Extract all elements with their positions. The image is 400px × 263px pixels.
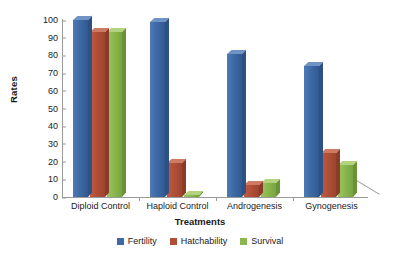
legend-label: Hatchability xyxy=(181,236,228,246)
x-axis-tick-mark xyxy=(139,197,140,201)
y-axis-tick-mark xyxy=(62,91,66,92)
y-axis-tick-mark xyxy=(62,38,66,39)
bar-front-face xyxy=(107,32,122,197)
y-axis-tick-label: 100 xyxy=(28,16,58,25)
bar-group xyxy=(150,20,199,197)
y-axis-tick-mark xyxy=(62,179,66,180)
bar-front-face xyxy=(338,165,353,197)
bar-side-face xyxy=(182,159,186,197)
y-axis-tick-mark xyxy=(62,55,66,56)
bar-fertility xyxy=(150,22,165,197)
bar-survival xyxy=(107,32,122,197)
y-axis-tick-mark xyxy=(62,197,66,198)
y-axis-tick-mark xyxy=(62,73,66,74)
bar-hatchability xyxy=(90,32,105,197)
y-axis-tick-mark xyxy=(62,126,66,127)
y-axis-tick-label: 40 xyxy=(28,122,58,131)
legend-item-survival[interactable]: Survival xyxy=(240,236,283,246)
bar-fertility xyxy=(227,54,242,197)
y-axis-tick-mark xyxy=(62,144,66,145)
bar-front-face xyxy=(167,163,182,197)
y-axis-tick-label: 30 xyxy=(28,139,58,148)
legend-item-fertility[interactable]: Fertility xyxy=(117,236,157,246)
bar-side-face xyxy=(105,28,109,197)
bar-group xyxy=(73,20,122,197)
y-axis-tick-label: 80 xyxy=(28,51,58,60)
y-axis-tick-label: 0 xyxy=(28,193,58,202)
bar-side-face xyxy=(353,161,357,197)
bar-front-face xyxy=(73,20,88,197)
legend-swatch xyxy=(117,238,124,245)
bar-front-face xyxy=(150,22,165,197)
y-axis-tick-label: 20 xyxy=(28,157,58,166)
bar-front-face xyxy=(244,185,259,197)
bar-side-face xyxy=(88,16,92,197)
bar-survival xyxy=(261,183,276,197)
bar-side-face xyxy=(336,148,340,197)
plot-area xyxy=(62,20,370,197)
x-axis-tick-mark xyxy=(293,197,294,201)
legend-label: Fertility xyxy=(128,236,157,246)
y-axis-tick-label: 50 xyxy=(28,104,58,113)
bar-side-face xyxy=(242,49,246,197)
x-axis-category-label: Androgenesis xyxy=(227,201,282,211)
legend-swatch xyxy=(240,238,247,245)
bar-survival xyxy=(338,165,353,197)
chart-legend: FertilityHatchabilitySurvival xyxy=(0,236,400,246)
bar-group xyxy=(227,20,276,197)
y-axis-tick-mark xyxy=(62,109,66,110)
bar-hatchability xyxy=(321,153,336,197)
bar-front-face xyxy=(184,195,199,197)
y-axis-tick-label: 60 xyxy=(28,86,58,95)
legend-swatch xyxy=(170,238,177,245)
bar-group xyxy=(304,20,353,197)
y-axis-tick-label: 10 xyxy=(28,175,58,184)
bar-front-face xyxy=(304,66,319,197)
y-axis-tick-mark xyxy=(62,20,66,21)
bar-front-face xyxy=(321,153,336,197)
y-axis-tick-label: 90 xyxy=(28,33,58,42)
y-axis-tick-label: 70 xyxy=(28,69,58,78)
bar-hatchability xyxy=(167,163,182,197)
bar-front-face xyxy=(90,32,105,197)
x-axis-category-label: Gynogenesis xyxy=(305,201,358,211)
legend-item-hatchability[interactable]: Hatchability xyxy=(170,236,228,246)
bar-fertility xyxy=(73,20,88,197)
x-axis-title: Treatments xyxy=(0,216,400,227)
bar-side-face xyxy=(165,17,169,197)
x-axis-line xyxy=(62,197,350,198)
bar-side-face xyxy=(319,62,323,197)
x-axis-tick-mark xyxy=(216,197,217,201)
bar-fertility xyxy=(304,66,319,197)
y-axis-title: Rates xyxy=(8,55,19,125)
y-axis-tick-mark xyxy=(62,162,66,163)
bar-front-face xyxy=(261,183,276,197)
legend-label: Survival xyxy=(251,236,283,246)
bar-chart: Rates 1009080706050403020100 Diploid Con… xyxy=(0,0,400,263)
x-axis-category-label: Diploid Control xyxy=(71,201,130,211)
bar-front-face xyxy=(227,54,242,197)
bar-survival xyxy=(184,195,199,197)
bar-hatchability xyxy=(244,185,259,197)
bar-side-face xyxy=(122,28,126,197)
x-axis-category-label: Haploid Control xyxy=(146,201,208,211)
